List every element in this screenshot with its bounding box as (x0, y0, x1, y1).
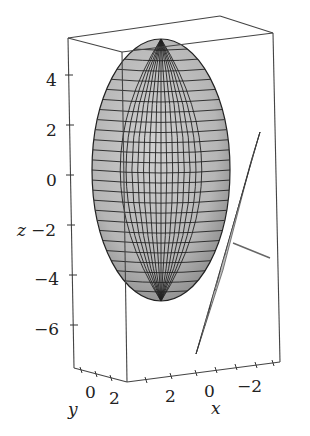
z-tick-label: −2 (31, 220, 56, 240)
z-tick-label: 0 (46, 170, 57, 190)
x-tick-label: −2 (237, 376, 262, 396)
x-axis-label: x (211, 398, 221, 418)
z-axis-label: z (16, 220, 27, 240)
y-axis-label: y (67, 399, 78, 419)
x-tick-label: 2 (165, 386, 176, 406)
z-axis: 4 2 0 −2 −4 −6 z (16, 70, 78, 339)
z-tick-label: 2 (46, 120, 57, 140)
z-tick-label: 4 (46, 70, 57, 90)
y-axis: 0 2 y (67, 382, 120, 419)
ellipsoid-surface (92, 39, 230, 301)
normal-line (233, 243, 270, 258)
z-tick-label: −6 (34, 319, 59, 339)
y-tick-label: 2 (109, 388, 120, 408)
y-tick-label: 0 (85, 382, 96, 402)
x-axis: 2 0 −2 x (165, 376, 262, 418)
z-tick-label: −4 (34, 269, 59, 289)
3d-plot: 4 2 0 −2 −4 −6 z 0 2 y 2 0 −2 x (0, 0, 310, 436)
